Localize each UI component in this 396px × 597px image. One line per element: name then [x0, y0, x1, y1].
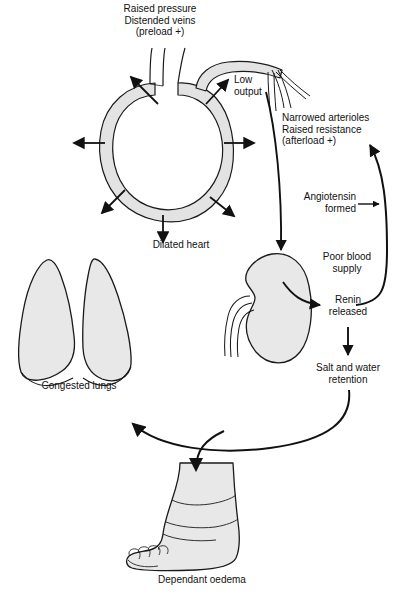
- kidney-organ: [225, 254, 312, 363]
- lung-right: [83, 259, 131, 381]
- heart-wall: [100, 83, 234, 222]
- label-salt-and-water: Salt and water retention: [304, 362, 392, 385]
- label-dependant-oedema: Dependant oedema: [132, 574, 272, 586]
- label-dilated-heart: Dilated heart: [128, 239, 234, 251]
- arrow-low-output-to-kidney: [266, 92, 281, 250]
- pulmonary-vein: [178, 48, 185, 83]
- swollen-foot-organ: [127, 463, 240, 571]
- arrow-salt-to-lungs: [133, 390, 349, 451]
- label-poor-blood-supply: Poor blood supply: [308, 251, 386, 274]
- kidney-body: [246, 254, 312, 363]
- vena-cava: [150, 48, 152, 84]
- label-angiotensin-formed: Angiotensin formed: [288, 191, 356, 214]
- congested-lungs-organ: [19, 259, 132, 386]
- label-low-output: Low output: [234, 74, 294, 97]
- label-congested-lungs: Congested lungs: [26, 380, 132, 392]
- label-narrowed-arterioles: Narrowed arterioles Raised resistance (a…: [282, 112, 396, 147]
- foot-shape: [127, 463, 240, 571]
- lung-left: [19, 260, 75, 381]
- label-raised-pressure: Raised pressure Distended veins (preload…: [100, 3, 220, 38]
- label-renin-released: Renin released: [318, 294, 378, 317]
- heart-failure-diagram: Raised pressure Distended veins (preload…: [0, 0, 396, 597]
- vena-cava-edge: [163, 48, 165, 86]
- arrow-renin-feedback-to-arterioles: [356, 145, 387, 305]
